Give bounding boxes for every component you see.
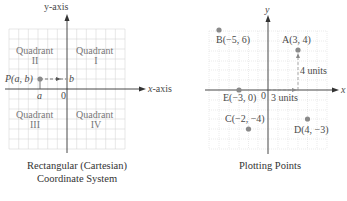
point-p-label: P(a, b)	[4, 73, 33, 85]
quadrant-iv-numeral: IV	[91, 119, 102, 130]
right-y-axis-label: y	[264, 4, 270, 15]
left-x-axis-label: x-axis	[147, 83, 172, 94]
quadrant-ii-numeral: II	[32, 55, 39, 66]
vertical-units-label: 4 units	[300, 65, 327, 76]
x-axis-suffix: -axis	[152, 83, 172, 94]
quadrant-iii-numeral: III	[30, 119, 40, 130]
guide-to-a	[268, 53, 300, 92]
arrow-to-b-icon	[56, 77, 61, 81]
point-e-label: E(−3, 0)	[223, 92, 256, 104]
a-label: a	[37, 90, 42, 101]
left-y-axis-label: y-axis	[44, 1, 69, 12]
point-d-label: D(4, −3)	[294, 124, 329, 136]
point-b-label: B(−5, 6)	[216, 34, 250, 46]
right-origin-label: 0	[261, 90, 266, 101]
up-arrow-icon	[296, 53, 300, 58]
y-axis-arrow-icon	[65, 14, 70, 21]
point-a-label: A(3, 4)	[282, 34, 311, 46]
point-b	[216, 27, 221, 32]
point-c-label: C(−2, −4)	[225, 113, 265, 125]
point-a	[295, 47, 300, 52]
right-x-arrow-icon	[332, 88, 339, 93]
right-x-axis-label: x	[340, 84, 346, 95]
left-origin-label: 0	[61, 90, 66, 101]
left-caption-line1: Rectangular (Cartesian)	[12, 159, 142, 172]
quadrant-i-numeral: I	[94, 55, 97, 66]
left-caption-line2: Coordinate System	[12, 172, 142, 185]
right-y-arrow-icon	[266, 15, 271, 22]
point-c	[246, 126, 251, 131]
point-p-dot	[37, 76, 42, 81]
left-caption: Rectangular (Cartesian) Coordinate Syste…	[12, 159, 142, 185]
point-p	[37, 76, 66, 89]
right-caption: Plotting Points	[215, 159, 325, 172]
x-axis-arrow-icon	[139, 87, 146, 92]
b-label: b	[69, 73, 74, 84]
horizontal-units-label: 3 units	[271, 92, 298, 103]
point-d	[305, 116, 310, 121]
